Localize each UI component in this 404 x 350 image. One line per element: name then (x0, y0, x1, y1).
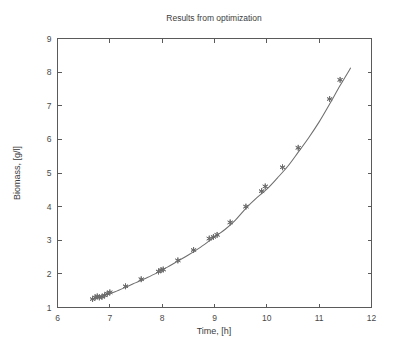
x-tick-label: 6 (55, 313, 60, 323)
x-tick-label: 8 (160, 313, 165, 323)
y-tick-label: 2 (47, 269, 52, 279)
x-tick-label: 12 (367, 313, 377, 323)
figure-container: Results from optimization 6789101112 123… (0, 0, 404, 350)
y-tick-label: 6 (47, 134, 52, 144)
y-tick-label: 5 (47, 168, 52, 178)
chart-canvas: Results from optimization 6789101112 123… (0, 0, 404, 350)
x-tick-label: 9 (212, 313, 217, 323)
x-tick-label: 11 (315, 313, 324, 323)
y-axis-title: Biomass, [g/l] (12, 146, 22, 200)
y-axis-tick-labels: 123456789 (47, 34, 52, 313)
y-tick-label: 9 (47, 34, 52, 44)
figure-background (0, 0, 404, 350)
y-tick-label: 7 (47, 101, 52, 111)
x-axis-title: Time, [h] (197, 326, 232, 336)
chart-title: Results from optimization (166, 13, 262, 23)
x-tick-label: 7 (107, 313, 112, 323)
y-tick-label: 4 (47, 202, 52, 212)
x-tick-label: 10 (262, 313, 272, 323)
y-tick-label: 1 (47, 303, 52, 313)
y-tick-label: 3 (47, 235, 52, 245)
y-tick-label: 8 (47, 67, 52, 77)
